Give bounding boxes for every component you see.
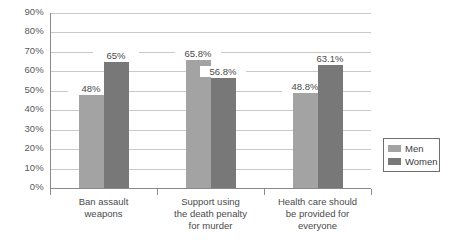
plot-area: 48%65%65.8%56.8%48.8%63.1%: [50, 13, 371, 188]
bar-women[interactable]: [211, 78, 236, 188]
x-axis-category-label: Ban assault weapons: [50, 196, 157, 220]
bar-women[interactable]: [104, 62, 129, 188]
y-axis-tick-label: 70%: [0, 45, 46, 56]
bar-men[interactable]: [186, 60, 211, 188]
y-axis-tick-label: 20%: [0, 142, 46, 153]
legend-label-men: Men: [405, 143, 423, 154]
bar-men[interactable]: [293, 93, 318, 188]
y-axis-tick-label: 60%: [0, 64, 46, 75]
bar-value-label: 56.8%: [200, 66, 246, 77]
y-axis-tick-label: 40%: [0, 103, 46, 114]
legend: Men Women: [383, 138, 440, 172]
y-axis-labels: 90%80%70%60%50%40%30%20%10%0%: [0, 0, 46, 245]
x-axis-category-label: Health care should be provided for every…: [264, 196, 371, 232]
legend-swatch-men-icon: [388, 145, 401, 152]
bar-value-label: 65%: [93, 50, 139, 61]
x-axis-tick: [50, 189, 51, 195]
bar-women[interactable]: [318, 65, 343, 188]
legend-label-women: Women: [405, 156, 438, 167]
y-axis-tick-label: 80%: [0, 25, 46, 36]
bar-group: 48.8%63.1%: [293, 13, 343, 188]
bar-chart: 90%80%70%60%50%40%30%20%10%0% 48%65%65.8…: [0, 0, 453, 245]
x-axis-category-label: Support using the death penalty for murd…: [157, 196, 264, 232]
x-axis-tick: [264, 189, 265, 195]
x-axis-tick: [157, 189, 158, 195]
y-axis-tick-label: 10%: [0, 162, 46, 173]
y-axis-line: [50, 13, 51, 189]
bar-value-label: 65.8%: [175, 48, 221, 59]
y-axis-tick-label: 90%: [0, 6, 46, 17]
bar-men[interactable]: [79, 95, 104, 188]
x-axis-line: [50, 188, 371, 189]
y-axis-tick-label: 50%: [0, 84, 46, 95]
y-axis-tick-label: 0%: [0, 181, 46, 192]
y-axis-tick-label: 30%: [0, 123, 46, 134]
legend-item-men[interactable]: Men: [388, 142, 435, 155]
bar-value-label: 63.1%: [307, 53, 353, 64]
x-axis-tick: [371, 189, 372, 195]
legend-item-women[interactable]: Women: [388, 155, 435, 168]
bar-group: 48%65%: [79, 13, 129, 188]
legend-swatch-women-icon: [388, 158, 401, 165]
bar-group: 65.8%56.8%: [186, 13, 236, 188]
